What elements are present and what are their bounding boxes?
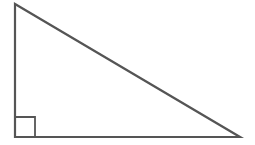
diagram-canvas: [0, 0, 255, 145]
right-triangle-figure: [0, 0, 255, 145]
triangle-shape: [15, 4, 240, 137]
right-angle-marker: [15, 117, 35, 137]
